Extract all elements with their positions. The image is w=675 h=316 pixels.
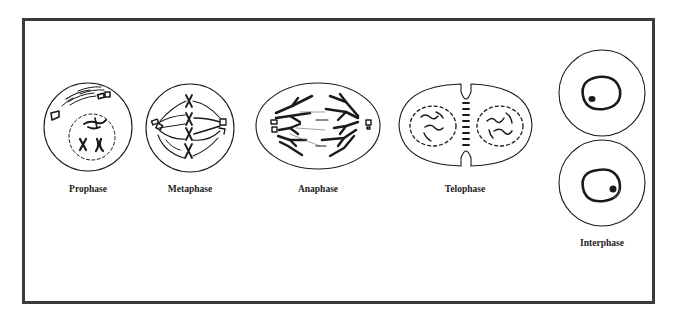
label-telophase: Telophase: [445, 184, 485, 194]
mitosis-diagram: [0, 0, 675, 316]
label-interphase: Interphase: [580, 238, 624, 248]
prophase-cell: [44, 83, 132, 171]
metaphase-cell: [146, 84, 234, 172]
interphase-cell-top: [559, 50, 645, 136]
label-prophase: Prophase: [69, 184, 107, 194]
label-anaphase: Anaphase: [298, 184, 338, 194]
label-metaphase: Metaphase: [168, 184, 212, 194]
telophase-cell: [399, 84, 532, 166]
interphase-cell-bottom: [559, 140, 645, 226]
anaphase-cell: [256, 83, 380, 169]
